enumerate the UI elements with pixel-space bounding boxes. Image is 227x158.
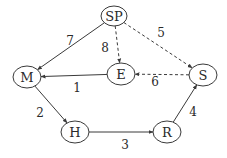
node-label: S <box>199 68 208 83</box>
directed-graph-diagram: SPMESHR 12345678 <box>0 0 227 158</box>
edge-label: 7 <box>66 34 74 48</box>
node-r: R <box>153 121 181 143</box>
edge-s-to-e <box>135 74 189 75</box>
node-label: H <box>69 125 80 140</box>
node-label: E <box>116 67 126 82</box>
edge-label: 1 <box>73 81 81 95</box>
node-label: M <box>20 70 33 85</box>
node-label: R <box>162 125 173 140</box>
edge-label: 3 <box>121 138 129 152</box>
edge-label: 6 <box>151 75 159 89</box>
edge-label: 8 <box>101 41 109 55</box>
node-s: S <box>189 64 217 86</box>
node-sp: SP <box>101 6 127 26</box>
node-h: H <box>61 121 89 143</box>
node-m: M <box>13 66 41 88</box>
node-label: SP <box>105 9 123 24</box>
edge-e-to-m <box>41 74 107 76</box>
node-e: E <box>107 63 135 85</box>
edge-label: 5 <box>157 26 165 40</box>
edge-label: 4 <box>189 105 197 119</box>
edge-sp-to-e <box>115 26 119 63</box>
edge-label: 2 <box>36 106 44 120</box>
